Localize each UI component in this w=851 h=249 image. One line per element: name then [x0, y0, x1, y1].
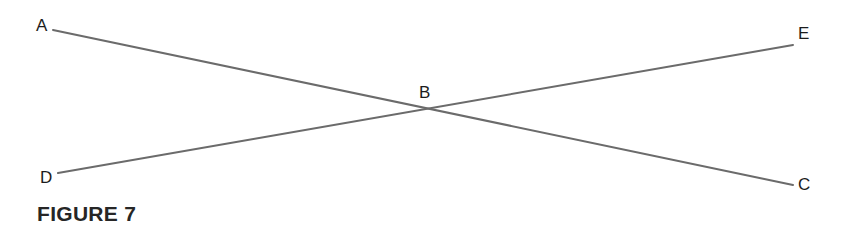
point-label-e: E: [798, 25, 809, 42]
point-label-b: B: [419, 84, 430, 101]
figure-caption: FIGURE 7: [37, 203, 136, 224]
point-label-a: A: [36, 17, 47, 34]
figure-container: A E B D C FIGURE 7: [0, 0, 851, 249]
point-label-c: C: [798, 176, 810, 193]
point-label-d: D: [40, 169, 52, 186]
